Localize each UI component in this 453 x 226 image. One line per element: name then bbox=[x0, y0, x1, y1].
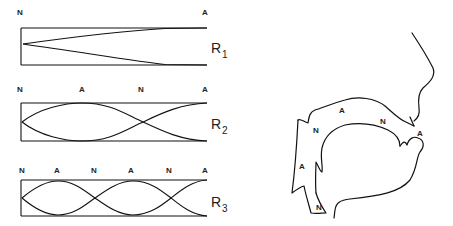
face-profile bbox=[412, 33, 434, 121]
r3-marker-5: A bbox=[202, 166, 208, 175]
r2-label: R bbox=[211, 116, 221, 132]
pharynx-back-wall bbox=[292, 120, 326, 213]
r3-marker-3: A bbox=[128, 166, 134, 175]
resonance-r3-panel: N A N A N A R 3 bbox=[19, 166, 228, 216]
r1-wave-upper bbox=[23, 28, 207, 44]
diagram-canvas: N A R 1 N A N A R 2 N A N A N A R 3 bbox=[0, 0, 453, 226]
r3-label-sub: 3 bbox=[222, 203, 228, 214]
tract-label-palate: A bbox=[339, 106, 345, 115]
r2-marker-1: A bbox=[79, 85, 85, 94]
r3-marker-0: N bbox=[19, 166, 25, 175]
r2-marker-2: N bbox=[138, 85, 144, 94]
resonance-r1-panel: N A R 1 bbox=[17, 8, 228, 65]
tract-label-pharynx: A bbox=[299, 162, 305, 171]
resonance-r2-panel: N A N A R 2 bbox=[17, 85, 228, 141]
r1-label-sub: 1 bbox=[222, 49, 228, 60]
r2-label-sub: 2 bbox=[222, 125, 228, 136]
r1-marker-0: N bbox=[17, 8, 23, 17]
tract-label-lips: A bbox=[417, 129, 423, 138]
r3-label: R bbox=[211, 194, 221, 210]
upper-tract-wall bbox=[298, 98, 414, 126]
tract-label-velum: N bbox=[380, 117, 386, 126]
tongue-surface bbox=[316, 124, 400, 193]
r2-marker-3: A bbox=[202, 85, 208, 94]
r1-wave-lower bbox=[23, 44, 207, 65]
r1-label: R bbox=[211, 40, 221, 56]
r2-marker-0: N bbox=[17, 85, 23, 94]
r3-marker-2: N bbox=[91, 166, 97, 175]
r1-marker-1: A bbox=[202, 8, 208, 17]
tract-label-upper-pharynx: N bbox=[313, 126, 319, 135]
lower-lip-jaw bbox=[334, 137, 423, 218]
r3-marker-4: N bbox=[166, 166, 172, 175]
tract-label-glottis: N bbox=[316, 203, 322, 212]
vocal-tract-panel: A N N A A N bbox=[292, 33, 434, 218]
r3-marker-1: A bbox=[54, 166, 60, 175]
